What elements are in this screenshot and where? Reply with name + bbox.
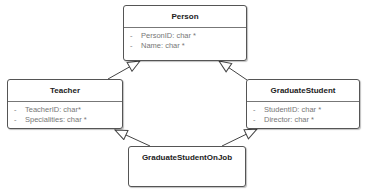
class-title: Teacher — [8, 80, 122, 101]
arrow-gsoj-to-graduatestudent — [222, 129, 257, 146]
class-title: GraduateStudentOnJob — [129, 147, 245, 167]
class-graduatestudentonjob[interactable]: GraduateStudentOnJob — [128, 146, 246, 187]
class-teacher[interactable]: Teacher -TeacherID: char* -Specialities:… — [7, 79, 123, 129]
attribute-row: -PersonID: char * — [130, 31, 246, 41]
class-title: GraduateStudent — [247, 80, 359, 101]
attribute-list: -StudentID: char * -Director: char * — [247, 101, 359, 129]
arrow-graduatestudent-to-person — [219, 61, 247, 80]
attribute-row: -StudentID: char * — [253, 105, 359, 115]
attribute-list: -TeacherID: char* -Specialities: char * — [8, 101, 122, 129]
attribute-list: -PersonID: char * -Name: char * — [124, 27, 246, 61]
class-person[interactable]: Person -PersonID: char * -Name: char * — [123, 5, 247, 61]
arrow-gsoj-to-teacher — [115, 130, 150, 146]
attribute-row: -Director: char * — [253, 115, 359, 125]
class-graduatestudent[interactable]: GraduateStudent -StudentID: char * -Dire… — [246, 79, 360, 129]
attribute-row: -Name: char * — [130, 41, 246, 51]
arrow-teacher-to-person — [108, 61, 140, 79]
attribute-row: -TeacherID: char* — [14, 105, 122, 115]
attribute-row: -Specialities: char * — [14, 115, 122, 125]
class-title: Person — [124, 6, 246, 27]
